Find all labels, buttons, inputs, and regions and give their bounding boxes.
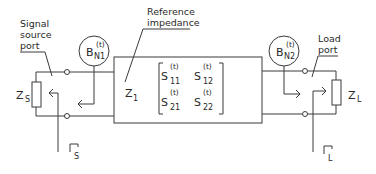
source-terminal-bottom bbox=[65, 114, 70, 119]
svg-text:Z: Z bbox=[348, 89, 356, 102]
two-port-noise-diagram: Signal source port Reference impedance L… bbox=[0, 0, 376, 174]
svg-text:1: 1 bbox=[133, 94, 138, 103]
svg-text:B: B bbox=[276, 46, 284, 59]
svg-text:(t): (t) bbox=[170, 62, 179, 71]
load-terminal-top bbox=[303, 69, 308, 74]
svg-text:source: source bbox=[20, 29, 52, 40]
svg-text:B: B bbox=[86, 46, 94, 59]
svg-text:(t): (t) bbox=[96, 40, 105, 49]
gamma-l-arrow bbox=[313, 91, 326, 152]
svg-text:21: 21 bbox=[170, 103, 180, 112]
svg-text:N2: N2 bbox=[284, 52, 295, 61]
svg-text:S: S bbox=[194, 70, 201, 83]
svg-text:22: 22 bbox=[203, 103, 213, 112]
svg-text:S: S bbox=[194, 96, 201, 109]
svg-text:N1: N1 bbox=[94, 52, 105, 61]
gamma-s-arrow bbox=[49, 93, 58, 152]
svg-text:Z: Z bbox=[16, 89, 24, 102]
svg-text:L: L bbox=[328, 154, 333, 163]
source-impedance-resistor bbox=[32, 82, 41, 107]
svg-text:Reference: Reference bbox=[147, 6, 195, 17]
svg-text:(t): (t) bbox=[286, 40, 295, 49]
svg-text:Signal: Signal bbox=[20, 18, 49, 29]
svg-text:(t): (t) bbox=[203, 88, 212, 97]
svg-text:port: port bbox=[318, 44, 338, 55]
source-terminal-top bbox=[65, 70, 70, 75]
svg-text:Load: Load bbox=[318, 33, 341, 44]
svg-text:L: L bbox=[357, 95, 362, 104]
svg-text:11: 11 bbox=[170, 77, 180, 86]
svg-text:impedance: impedance bbox=[147, 17, 200, 28]
svg-text:S: S bbox=[161, 96, 168, 109]
signal-source-port-label: Signal source port bbox=[20, 18, 52, 76]
source-circuit: Z S S bbox=[16, 70, 114, 162]
svg-text:S: S bbox=[161, 70, 168, 83]
load-impedance-resistor bbox=[332, 80, 341, 105]
svg-text:12: 12 bbox=[203, 77, 213, 86]
matrix-bracket-right bbox=[219, 63, 223, 114]
svg-text:S: S bbox=[25, 95, 30, 104]
noise-source-2: B (t) N2 bbox=[269, 36, 300, 98]
load-circuit: Z L L bbox=[262, 69, 362, 164]
load-terminal-bottom bbox=[303, 112, 308, 117]
svg-text:port: port bbox=[20, 40, 40, 51]
two-port-network-box: Z 1 (t) S 11 (t) S 12 (t) S 21 (t) S 22 bbox=[114, 57, 262, 123]
svg-text:Z: Z bbox=[125, 87, 133, 100]
svg-text:S: S bbox=[74, 152, 79, 161]
load-port-label: Load port bbox=[312, 33, 341, 77]
svg-text:(t): (t) bbox=[170, 88, 179, 97]
svg-text:(t): (t) bbox=[203, 62, 212, 71]
